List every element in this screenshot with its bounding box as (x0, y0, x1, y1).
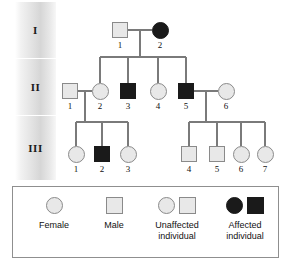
individual-ii-5-number: 5 (177, 101, 195, 111)
filled-circle-icon (226, 197, 243, 214)
individual-ii-5-symbol-male-affected[interactable] (178, 83, 194, 99)
legend-label-unaffected: Unaffected individual (141, 220, 213, 242)
individual-ii-6-number: 6 (217, 101, 235, 111)
individual-ii-1-number: 1 (61, 101, 79, 111)
legend-item-male: Male (87, 192, 141, 231)
individual-iii-6-symbol-female-unaffected[interactable] (233, 146, 250, 163)
individual-i-2-symbol-female-affected[interactable] (152, 22, 169, 39)
individual-iii-4-number: 4 (180, 164, 198, 174)
legend-item-affected: Affected individual (213, 192, 277, 242)
open-square-icon (106, 197, 123, 214)
individual-iii-5-number: 5 (208, 164, 226, 174)
individual-iii-4-symbol-male-unaffected[interactable] (181, 146, 197, 162)
individual-i-2-number: 2 (151, 40, 169, 50)
legend-box: Female Male Unaffected individual Affect… (12, 186, 279, 258)
individual-iii-3-symbol-female-unaffected[interactable] (120, 146, 137, 163)
individual-iii-2-symbol-male-affected[interactable] (94, 146, 110, 162)
legend-item-unaffected: Unaffected individual (141, 192, 213, 242)
legend-glyphs-unaffected (141, 192, 213, 218)
legend-label-affected: Affected individual (213, 220, 277, 242)
individual-iii-5-symbol-male-unaffected[interactable] (209, 146, 225, 162)
individual-ii-3-number: 3 (119, 101, 137, 111)
individual-iii-6-number: 6 (232, 164, 250, 174)
legend-label-male: Male (87, 220, 141, 231)
filled-square-icon (247, 197, 264, 214)
open-square-icon (179, 197, 196, 214)
individual-iii-1-symbol-female-unaffected[interactable] (68, 146, 85, 163)
individual-ii-4-symbol-female-unaffected[interactable] (150, 83, 167, 100)
legend-glyphs-female (21, 192, 87, 218)
individual-ii-6-symbol-female-unaffected[interactable] (218, 83, 235, 100)
individual-iii-7-symbol-female-unaffected[interactable] (257, 146, 274, 163)
individual-i-1-symbol-male-unaffected[interactable] (112, 22, 128, 38)
individual-iii-7-number: 7 (256, 164, 274, 174)
individual-i-1-number: 1 (111, 40, 129, 50)
individual-ii-3-symbol-male-affected[interactable] (120, 83, 136, 99)
pedigree-diagram: 1 2 1 2 3 4 5 6 1 2 3 4 5 6 7 (0, 0, 291, 185)
pedigree-chart-figure: I II III (0, 0, 291, 265)
open-circle-icon (46, 197, 63, 214)
individual-ii-2-symbol-female-unaffected[interactable] (92, 83, 109, 100)
individual-ii-1-symbol-male-unaffected[interactable] (62, 83, 78, 99)
legend-glyphs-male (87, 192, 141, 218)
individual-ii-4-number: 4 (149, 101, 167, 111)
individual-iii-1-number: 1 (67, 164, 85, 174)
legend-label-female: Female (21, 220, 87, 231)
individual-ii-2-number: 2 (91, 101, 109, 111)
open-circle-icon (158, 197, 175, 214)
legend-glyphs-affected (213, 192, 277, 218)
individual-iii-3-number: 3 (119, 164, 137, 174)
legend-item-female: Female (21, 192, 87, 231)
individual-iii-2-number: 2 (93, 164, 111, 174)
